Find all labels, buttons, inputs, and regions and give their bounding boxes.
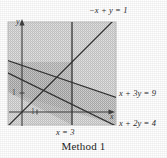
equation-label-line2: x + 2y = 4 xyxy=(119,119,156,128)
figure-method-1: −x + y = 1 x + 3y = 9 x + 2y = 4 x = 3 y… xyxy=(0,0,167,158)
y-axis-label: y xyxy=(16,18,20,26)
plot-svg xyxy=(0,0,167,158)
y-axis-tick-label-1: 1 xyxy=(12,89,16,97)
figure-caption: Method 1 xyxy=(0,140,167,152)
equation-label-line3: x + 3y = 9 xyxy=(119,89,156,98)
x-axis-tick-label-1: 1 xyxy=(31,108,35,116)
equation-label-vline: x = 3 xyxy=(56,128,75,137)
region-upper-right xyxy=(72,22,116,66)
equation-label-line1: −x + y = 1 xyxy=(89,6,128,15)
x-axis-label: x xyxy=(110,113,114,121)
